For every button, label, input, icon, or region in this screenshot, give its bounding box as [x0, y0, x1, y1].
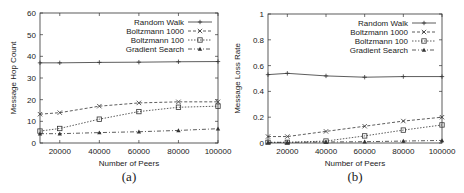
series-boltzmann-100 — [38, 104, 220, 133]
x-tick-label: 80000 — [392, 147, 415, 156]
chart-panel-a: 010203040506020000400006000080000100000N… — [0, 0, 232, 193]
legend: Random WalkBoltzmann 1000Boltzmann 100Gr… — [126, 18, 212, 54]
x-axis-label: Number of Peers — [325, 159, 385, 168]
x-tick-label: 40000 — [88, 147, 111, 156]
x-tick-label: 100000 — [205, 147, 232, 156]
y-tick-label: 10 — [27, 117, 36, 126]
y-tick-label: 60 — [27, 9, 36, 18]
x-axis-label: Number of Peers — [99, 159, 159, 168]
y-tick-label: 0 — [260, 139, 265, 148]
loss-rate-chart: 00.20.40.60.8120000400006000080000100000… — [232, 0, 464, 193]
panel-caption: (a) — [122, 169, 136, 184]
y-tick-label: 40 — [27, 52, 36, 61]
y-tick-label: 50 — [27, 31, 36, 40]
legend-label: Random Walk — [134, 18, 185, 27]
series-boltzmann-100 — [266, 123, 444, 145]
legend-label: Boltzmann 100 — [131, 36, 185, 45]
y-tick-label: 30 — [27, 74, 36, 83]
hop-count-chart: 010203040506020000400006000080000100000N… — [0, 0, 232, 193]
series-random-walk — [38, 59, 220, 65]
x-tick-label: 40000 — [315, 147, 338, 156]
y-tick-label: 0.8 — [253, 36, 265, 45]
y-tick-label: 20 — [27, 96, 36, 105]
legend-label: Boltzmann 1000 — [126, 27, 184, 36]
x-tick-label: 100000 — [429, 147, 456, 156]
series-gradient-search — [38, 127, 220, 136]
chart-panel-b: 00.20.40.60.8120000400006000080000100000… — [232, 0, 464, 193]
legend-label: Boltzmann 100 — [355, 37, 409, 46]
legend-label: Random Walk — [358, 19, 409, 28]
series-boltzmann-1000 — [266, 115, 444, 139]
y-tick-label: 1 — [260, 10, 265, 19]
legend: Random WalkBoltzmann 1000Boltzmann 100Gr… — [350, 19, 436, 55]
x-tick-label: 80000 — [167, 147, 190, 156]
x-tick-label: 20000 — [276, 147, 299, 156]
series-random-walk — [266, 71, 444, 79]
x-tick-label: 60000 — [354, 147, 377, 156]
legend-label: Gradient Search — [350, 46, 408, 55]
y-axis-label: Message Hop Count — [9, 41, 18, 115]
panel-caption: (b) — [347, 169, 362, 184]
x-tick-label: 20000 — [49, 147, 72, 156]
y-tick-label: 0.2 — [253, 113, 265, 122]
legend-label: Gradient Search — [126, 45, 184, 54]
y-tick-label: 0.4 — [253, 87, 265, 96]
y-tick-label: 0.6 — [253, 62, 265, 71]
y-axis-label: Message Loss Rate — [233, 43, 242, 114]
legend-label: Boltzmann 1000 — [350, 28, 408, 37]
x-tick-label: 60000 — [128, 147, 151, 156]
y-tick-label: 0 — [32, 139, 37, 148]
